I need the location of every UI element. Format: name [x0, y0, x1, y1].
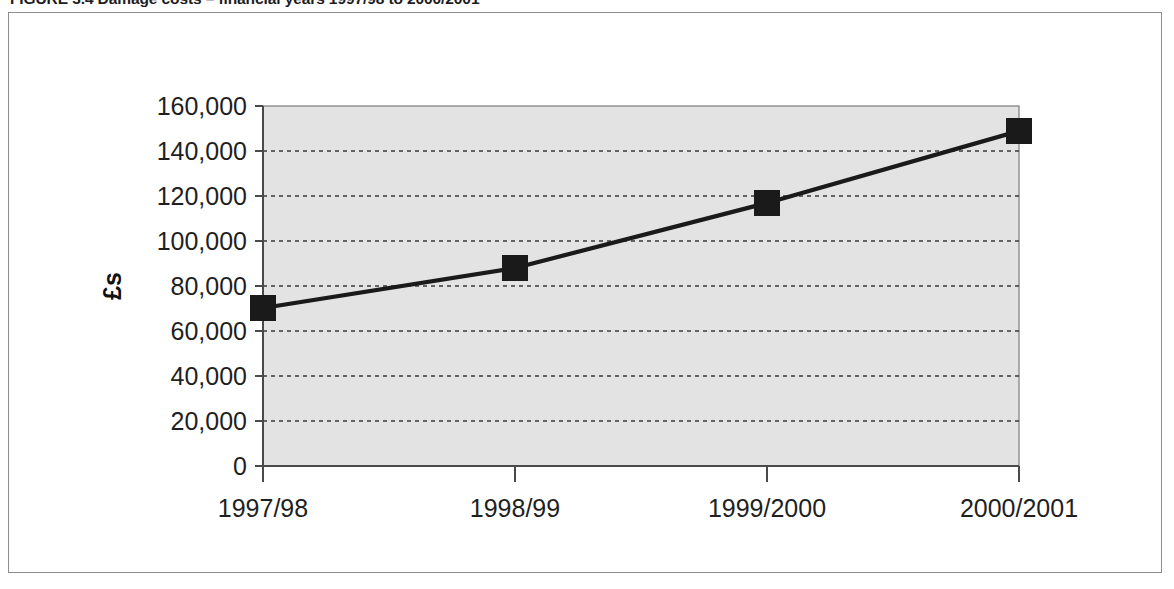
data-point-2000-2001	[1006, 118, 1032, 144]
y-tick-label-40000: 40,000	[171, 362, 247, 390]
figure-caption: FIGURE 3.4 Damage costs – financial year…	[10, 0, 1130, 10]
chart-frame: 160,000 140,000 120,000 100,000 80,000 6…	[8, 12, 1162, 573]
x-axis-tick-labels: 1997/98 1998/99 1999/2000 2000/2001	[218, 494, 1078, 522]
y-tick-label-80000: 80,000	[171, 272, 247, 300]
line-chart: 160,000 140,000 120,000 100,000 80,000 6…	[9, 13, 1163, 574]
y-tick-label-60000: 60,000	[171, 317, 247, 345]
chart-svg: 160,000 140,000 120,000 100,000 80,000 6…	[9, 13, 1163, 574]
x-tick-label-1998-99: 1998/99	[470, 494, 560, 522]
y-axis-tick-labels: 160,000 140,000 120,000 100,000 80,000 6…	[157, 92, 247, 480]
data-point-1999-2000	[754, 190, 780, 216]
y-tick-label-0: 0	[233, 452, 247, 480]
x-axis-ticks	[263, 466, 1019, 482]
x-tick-label-1997-98: 1997/98	[218, 494, 308, 522]
y-tick-label-120000: 120,000	[157, 182, 247, 210]
y-tick-label-140000: 140,000	[157, 137, 247, 165]
x-tick-label-1999-2000: 1999/2000	[708, 494, 826, 522]
y-tick-label-100000: 100,000	[157, 227, 247, 255]
data-point-1998-99	[502, 255, 528, 281]
y-axis-title: £s	[98, 272, 126, 300]
y-tick-label-160000: 160,000	[157, 92, 247, 120]
x-tick-label-2000-2001: 2000/2001	[960, 494, 1078, 522]
y-tick-label-20000: 20,000	[171, 407, 247, 435]
data-point-1997-98	[250, 295, 276, 321]
y-axis-ticks	[255, 106, 263, 466]
